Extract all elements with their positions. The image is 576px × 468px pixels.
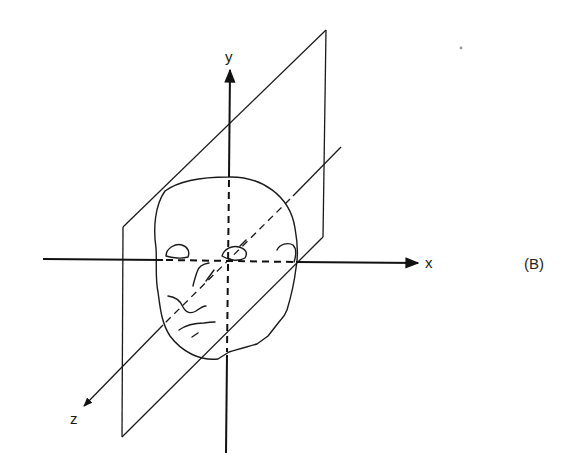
x-axis-label: x bbox=[425, 254, 433, 271]
z-axis: z bbox=[70, 147, 341, 427]
x-axis-hidden-segment bbox=[166, 260, 296, 262]
panel-label: (B) bbox=[524, 255, 544, 272]
nose-bridge bbox=[193, 263, 209, 286]
coordinate-diagram: z x y (B) bbox=[0, 0, 576, 468]
y-axis-label: y bbox=[225, 48, 233, 65]
nose bbox=[168, 296, 206, 313]
y-axis-lower-segment bbox=[226, 355, 227, 453]
head-drawing bbox=[155, 177, 298, 359]
y-axis-upper-segment bbox=[229, 70, 230, 177]
mouth bbox=[179, 322, 215, 330]
z-axis-upper-segment bbox=[293, 147, 341, 196]
ear bbox=[277, 244, 296, 262]
left-eye bbox=[166, 245, 189, 259]
chin-mark bbox=[192, 333, 198, 337]
plane-left-edge bbox=[122, 227, 123, 437]
scan-artifact bbox=[460, 47, 463, 50]
z-axis-label: z bbox=[70, 410, 78, 427]
x-axis-right-segment bbox=[296, 262, 418, 263]
z-axis-lower-segment bbox=[84, 325, 163, 406]
x-axis-left-segment bbox=[43, 259, 163, 260]
right-eye bbox=[222, 246, 246, 260]
head-outline bbox=[155, 177, 298, 359]
y-axis-hidden-segment bbox=[227, 180, 229, 352]
x-axis: x bbox=[43, 254, 433, 271]
plane-right-edge bbox=[323, 30, 326, 237]
